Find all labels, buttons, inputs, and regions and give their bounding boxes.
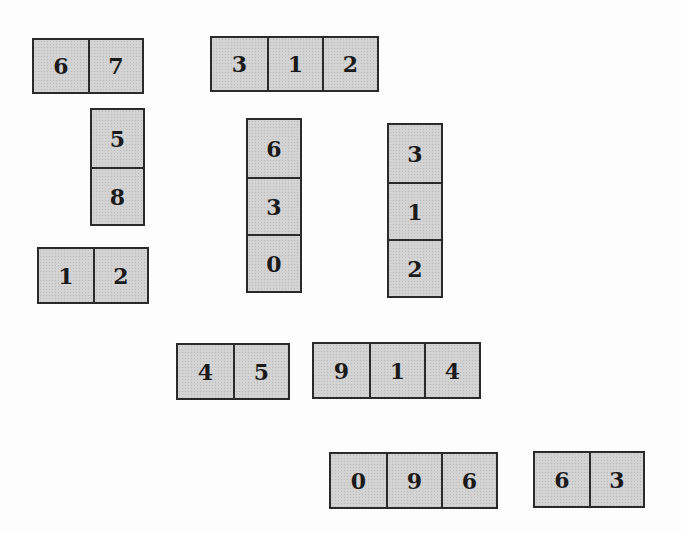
digit-tile: 2 (389, 239, 441, 296)
digit-tile: 7 (88, 40, 142, 92)
digit-tile: 2 (322, 38, 377, 90)
digit-tile: 8 (92, 167, 143, 224)
digit-tile: 3 (589, 453, 643, 506)
tile-group-63[interactable]: 63 (533, 451, 645, 508)
tile-group-630[interactable]: 630 (246, 118, 302, 293)
digit-tile: 6 (34, 40, 88, 92)
digit-tile: 6 (248, 120, 300, 177)
digit-tile: 1 (39, 249, 93, 302)
digit-tile: 1 (267, 38, 322, 90)
tile-group-67[interactable]: 67 (32, 38, 144, 94)
tile-group-45[interactable]: 45 (176, 343, 290, 400)
digit-tile: 0 (331, 454, 386, 507)
digit-tile: 1 (369, 344, 424, 397)
digit-tile: 5 (92, 110, 143, 167)
digit-tile: 3 (389, 125, 441, 182)
digit-tile: 3 (212, 38, 267, 90)
digit-tile: 9 (386, 454, 441, 507)
digit-tile: 3 (248, 177, 300, 234)
digit-tile: 6 (441, 454, 496, 507)
digit-tile: 5 (233, 345, 288, 398)
tile-group-096[interactable]: 096 (329, 452, 498, 509)
tile-group-914[interactable]: 914 (312, 342, 481, 399)
tile-group-312[interactable]: 312 (210, 36, 379, 92)
digit-tile: 2 (93, 249, 147, 302)
digit-tile: 9 (314, 344, 369, 397)
tile-group-12[interactable]: 12 (37, 247, 149, 304)
tile-group-312[interactable]: 312 (387, 123, 443, 298)
digit-tile: 4 (178, 345, 233, 398)
digit-tile: 4 (424, 344, 479, 397)
digit-tile: 6 (535, 453, 589, 506)
digit-tile: 1 (389, 182, 441, 239)
tile-group-58[interactable]: 58 (90, 108, 145, 226)
digit-tile: 0 (248, 234, 300, 291)
